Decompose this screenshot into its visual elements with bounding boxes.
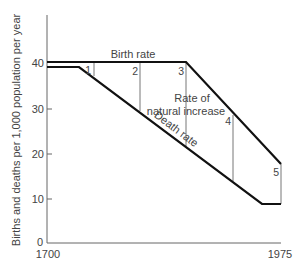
chart-figure: 0 10 20 30 40 1700 1975 Births and death… xyxy=(0,0,305,274)
rate-of-natural-increase-label-2: natural increase xyxy=(147,105,225,117)
marker-3: 3 xyxy=(178,65,184,77)
y-tick-label-10: 10 xyxy=(32,193,44,205)
marker-5: 5 xyxy=(273,166,279,178)
death-rate-line xyxy=(47,67,281,204)
y-tick-label-0: 0 xyxy=(37,236,43,248)
y-axis-label: Births and deaths per 1,000 population p… xyxy=(10,13,22,246)
demographic-transition-chart: 0 10 20 30 40 1700 1975 Births and death… xyxy=(0,0,305,274)
x-tick-label-1700: 1700 xyxy=(36,248,60,260)
x-tick-label-1975: 1975 xyxy=(268,248,292,260)
rate-of-natural-increase-label-1: Rate of xyxy=(174,92,210,104)
marker-1: 1 xyxy=(85,64,91,76)
y-tick-label-30: 30 xyxy=(32,103,44,115)
marker-4: 4 xyxy=(225,115,231,127)
birth-rate-label: Birth rate xyxy=(111,48,156,60)
y-tick-label-40: 40 xyxy=(32,57,44,69)
y-tick-label-20: 20 xyxy=(32,148,44,160)
marker-2: 2 xyxy=(132,65,138,77)
